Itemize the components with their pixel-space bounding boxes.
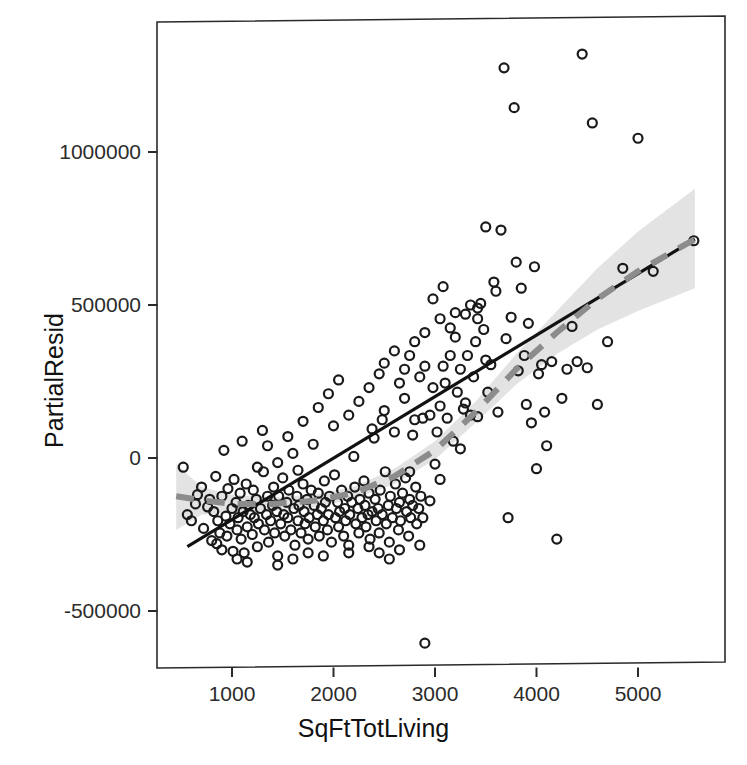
data-point [319, 551, 328, 560]
data-point [573, 357, 582, 366]
data-point [199, 524, 208, 533]
data-point [375, 528, 384, 537]
data-point [378, 415, 387, 424]
y-tick-label: 0 [129, 446, 141, 469]
data-point [390, 427, 399, 436]
data-point [386, 492, 395, 501]
data-point [217, 545, 226, 554]
data-point [230, 475, 239, 484]
data-point [394, 525, 403, 534]
data-point [428, 294, 437, 303]
data-point [253, 542, 262, 551]
data-point [278, 473, 287, 482]
data-point [527, 418, 536, 427]
data-point [260, 525, 269, 534]
data-point [496, 226, 505, 235]
data-point [512, 258, 521, 267]
data-point [557, 394, 566, 403]
data-point [593, 400, 602, 409]
data-point [405, 351, 414, 360]
data-point [248, 530, 257, 539]
data-point [493, 408, 502, 417]
data-point [415, 541, 424, 550]
data-point [446, 323, 455, 332]
data-point [233, 525, 242, 534]
data-point [433, 427, 442, 436]
data-point [264, 538, 273, 547]
data-point [334, 375, 343, 384]
data-point [510, 103, 519, 112]
data-point [315, 532, 324, 541]
data-point [380, 359, 389, 368]
data-point [418, 513, 427, 522]
x-tick-label: 1000 [209, 682, 256, 705]
data-point [420, 328, 429, 337]
data-point [552, 535, 561, 544]
data-point [339, 532, 348, 541]
data-point [327, 538, 336, 547]
data-point [349, 452, 358, 461]
y-tick-label: 1000000 [59, 140, 141, 163]
data-point [410, 337, 419, 346]
axis-frame-layer [157, 16, 725, 668]
data-point [481, 222, 490, 231]
data-point [532, 464, 541, 473]
data-point [453, 388, 462, 397]
data-point [286, 525, 295, 534]
data-point [439, 282, 448, 291]
data-point [446, 351, 455, 360]
data-point [471, 337, 480, 346]
data-point [211, 472, 220, 481]
x-axis-title: SqFtTotLiving [0, 714, 747, 743]
data-point [223, 484, 232, 493]
data-point [283, 432, 292, 441]
y-tick-label: 500000 [71, 293, 141, 316]
data-point [603, 337, 612, 346]
data-point [396, 516, 405, 525]
data-point [238, 437, 247, 446]
x-tick-label: 2000 [310, 682, 357, 705]
x-tick-label: 5000 [615, 682, 662, 705]
data-point [463, 351, 472, 360]
data-point [473, 314, 482, 323]
data-point [456, 365, 465, 374]
data-point [415, 372, 424, 381]
data-point [395, 379, 404, 388]
data-point [524, 319, 533, 328]
data-point [270, 528, 279, 537]
data-point [293, 466, 302, 475]
data-point [354, 397, 363, 406]
data-point [416, 492, 425, 501]
data-point [530, 262, 539, 271]
scatter-plot-figure: 10002000300040005000-5000000500000100000… [0, 0, 747, 765]
data-point [299, 417, 308, 426]
data-point [522, 400, 531, 409]
data-point [344, 411, 353, 420]
data-point [304, 535, 313, 544]
data-point [323, 525, 332, 534]
data-point [395, 545, 404, 554]
data-point [451, 308, 460, 317]
data-point [540, 408, 549, 417]
data-point [507, 313, 516, 322]
data-point [309, 440, 318, 449]
data-point [273, 458, 282, 467]
data-point [562, 365, 571, 374]
data-point [547, 357, 556, 366]
data-point [461, 310, 470, 319]
data-point [431, 460, 440, 469]
data-point [219, 446, 228, 455]
data-point [269, 483, 278, 492]
data-point [385, 538, 394, 547]
data-point [436, 401, 445, 410]
data-point [330, 470, 339, 479]
data-point [375, 369, 384, 378]
data-point [451, 333, 460, 342]
data-point [456, 444, 465, 453]
data-point [479, 325, 488, 334]
x-tick-label: 4000 [513, 682, 560, 705]
data-point-layer [179, 50, 699, 648]
data-point [258, 426, 267, 435]
data-point [578, 50, 587, 59]
data-point [371, 495, 380, 504]
